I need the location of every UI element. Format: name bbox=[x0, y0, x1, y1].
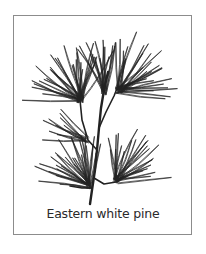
pine-needle bbox=[120, 91, 171, 97]
pine-needle bbox=[22, 100, 78, 102]
figure-caption: Eastern white pine bbox=[0, 206, 206, 221]
